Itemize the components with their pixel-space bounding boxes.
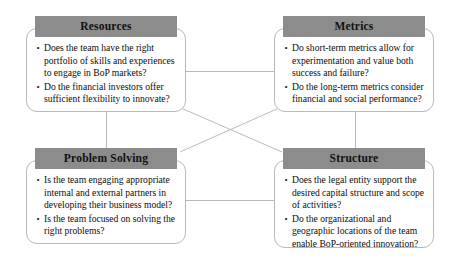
list-item: • Do the long-term metrics consider fina…	[280, 81, 427, 106]
node-problem-solving-title: Problem Solving	[64, 153, 148, 165]
bullet-icon: •	[32, 213, 44, 226]
list-item-text: Do short-term metrics allow for experime…	[292, 42, 427, 80]
node-resources-header: Resources	[35, 16, 177, 37]
bullet-icon: •	[280, 213, 292, 226]
node-resources-title: Resources	[80, 21, 131, 33]
node-structure-list: • Does the legal entity support the desi…	[274, 172, 434, 252]
list-item-text: Does the legal entity support the desire…	[292, 174, 427, 212]
node-structure-title: Structure	[330, 153, 379, 165]
node-structure-header: Structure	[283, 148, 425, 169]
connector-metrics-problemsolving	[180, 108, 279, 152]
node-resources[interactable]: Resources • Does the team have the right…	[26, 16, 186, 112]
list-item: • Do short-term metrics allow for experi…	[280, 42, 427, 80]
node-problem-solving-list: • Is the team engaging appropriate inter…	[26, 172, 186, 239]
list-item: • Does the team have the right portfolio…	[32, 42, 179, 80]
list-item-text: Do the long-term metrics consider financ…	[292, 81, 427, 106]
connector-resources-structure	[181, 108, 282, 152]
diagram-canvas: Resources • Does the team have the right…	[0, 0, 455, 260]
node-structure[interactable]: Structure • Does the legal entity suppor…	[274, 148, 434, 248]
node-metrics-list: • Do short-term metrics allow for experi…	[274, 40, 434, 107]
list-item-text: Does the team have the right portfolio o…	[44, 42, 179, 80]
bullet-icon: •	[32, 42, 44, 55]
node-metrics-header: Metrics	[283, 16, 425, 37]
bullet-icon: •	[280, 42, 292, 55]
list-item-text: Is the team focused on solving the right…	[44, 213, 179, 238]
node-metrics[interactable]: Metrics • Do short-term metrics allow fo…	[274, 16, 434, 112]
list-item: • Is the team focused on solving the rig…	[32, 213, 179, 238]
bullet-icon: •	[32, 174, 44, 187]
list-item-text: Is the team engaging appropriate interna…	[44, 174, 179, 212]
list-item: • Does the legal entity support the desi…	[280, 174, 427, 212]
bullet-icon: •	[280, 81, 292, 94]
node-resources-list: • Does the team have the right portfolio…	[26, 40, 186, 107]
list-item: • Is the team engaging appropriate inter…	[32, 174, 179, 212]
list-item-text: Do the financial investors offer suffici…	[44, 81, 179, 106]
bullet-icon: •	[280, 174, 292, 187]
list-item-text: Do the organizational and geographic loc…	[292, 213, 427, 251]
node-problem-solving-header: Problem Solving	[35, 148, 177, 169]
bullet-icon: •	[32, 81, 44, 94]
list-item: • Do the organizational and geographic l…	[280, 213, 427, 251]
list-item: • Do the financial investors offer suffi…	[32, 81, 179, 106]
node-metrics-title: Metrics	[334, 21, 373, 33]
node-problem-solving[interactable]: Problem Solving • Is the team engaging a…	[26, 148, 186, 244]
